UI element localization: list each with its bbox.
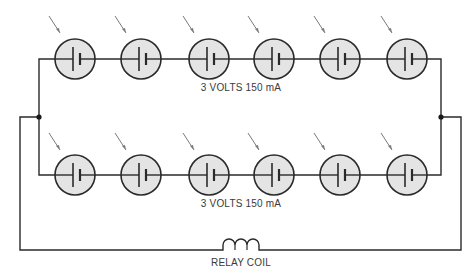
circuit-diagram	[0, 0, 476, 275]
solar-cell-icon	[314, 16, 360, 79]
right-junction-dot	[438, 114, 443, 119]
top-string-rating-label: 3 VOLTS 150 mA	[201, 82, 281, 93]
solar-cell-icon	[183, 16, 229, 79]
solar-cell-icon	[248, 133, 294, 195]
solar-cell-icon	[183, 133, 229, 195]
left-junction-dot	[36, 114, 41, 119]
relay-coil-icon	[220, 239, 262, 250]
solar-cell-icon	[115, 16, 161, 79]
solar-cell-icon	[248, 16, 294, 79]
relay-coil-label: RELAY COIL	[211, 257, 271, 268]
top-string-cells	[49, 16, 427, 79]
solar-cell-icon	[49, 133, 95, 195]
solar-cell-icon	[115, 133, 161, 195]
solar-cell-icon	[381, 133, 427, 195]
bottom-string-cells	[49, 133, 427, 195]
bottom-string-rating-label: 3 VOLTS 150 mA	[201, 198, 281, 209]
solar-cell-icon	[49, 16, 95, 79]
solar-cell-icon	[381, 16, 427, 79]
bottom-string-wires	[39, 117, 441, 175]
solar-cell-icon	[314, 133, 360, 195]
